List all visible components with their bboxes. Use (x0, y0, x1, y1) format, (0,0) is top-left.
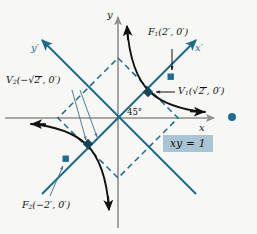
focus-1-letter: F (148, 26, 155, 37)
focus-2-letter: F (22, 199, 29, 210)
vertex-1-marker (143, 87, 153, 97)
branch-upper-arrow-top (127, 26, 128, 40)
vertex-1-coords-rest: ′, 0′) (204, 85, 224, 96)
y-axis-label: y (107, 10, 113, 20)
vertex-1-radical: √2 (192, 86, 204, 96)
focus-1-coords: (2′, 0′) (158, 26, 188, 37)
vertex-1-label: V1(√2′, 0′) (178, 86, 225, 97)
vertex-2-label: V2(−√2′, 0′) (6, 75, 61, 86)
focus-2-leader (50, 166, 63, 196)
stray-dot-marker (228, 113, 236, 121)
x-prime-tick: ′ (201, 42, 203, 53)
vertex-2-open-paren: (− (17, 74, 29, 85)
vertex-2-marker (83, 139, 93, 149)
x-prime-axis-label: x′ (195, 43, 203, 53)
focus-2-coords: (−2′, 0′) (32, 199, 70, 210)
vertex-1-letter: V (178, 85, 185, 96)
y-prime-tick: ′ (37, 42, 39, 53)
branch-lower-arrow-bottom (108, 196, 109, 210)
branch-upper-arrow-right (190, 111, 204, 112)
vertex-2-coords-rest: ′, 0′) (40, 74, 60, 85)
y-prime-axis-label: y′ (31, 43, 39, 53)
focus-2-label: F2(−2′, 0′) (22, 200, 70, 211)
angle-label: 45° (127, 108, 142, 117)
radical-bar (35, 76, 42, 77)
vertex-2-radical: √2 (28, 75, 40, 85)
hyperbola-rotated-axes-figure: y x y′ x′ 45° F1(2′, 0′) V1(√2′, 0′) V2(… (0, 0, 257, 234)
x-axis-label: x (199, 123, 205, 133)
focus-1-label: F1(2′, 0′) (148, 27, 188, 38)
vertex-2-letter: V (6, 74, 13, 85)
equation-box: xy = 1 (163, 135, 213, 152)
focus-1-marker (168, 74, 174, 80)
focus-2-marker (63, 156, 69, 162)
radical-bar (200, 87, 207, 88)
rotated-axes (42, 40, 196, 194)
vertex-2-leader-b (80, 90, 97, 137)
